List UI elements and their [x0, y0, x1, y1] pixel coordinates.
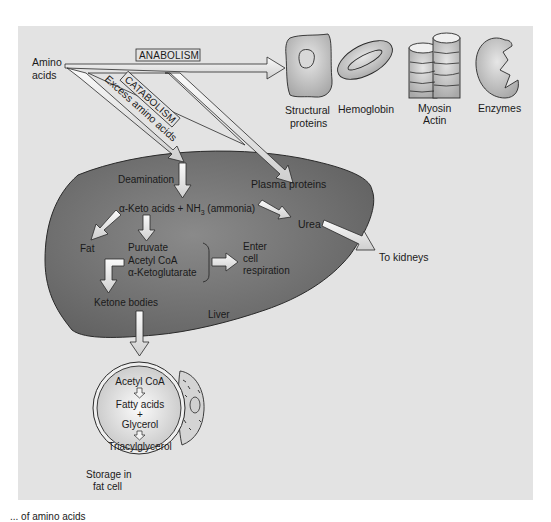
structural-proteins-label: Structural [285, 104, 330, 116]
structural-proteins-label-2: proteins [290, 117, 327, 129]
puruvate-label: Puruvate [128, 242, 168, 253]
figure-caption-fragment: ... of amino acids [10, 511, 86, 522]
cell-label: cell [243, 253, 258, 264]
to-kidneys-label: To kidneys [379, 251, 429, 263]
liver-label: Liver [208, 309, 230, 320]
deamination-label: Deamination [118, 174, 174, 185]
storage-caption: Storage in [86, 469, 132, 480]
enter-label: Enter [243, 241, 268, 252]
urea-label: Urea [298, 218, 321, 230]
amino-acid-metabolism-diagram: Amino acids ANABOLISM CATABOLISM Excess … [0, 0, 551, 522]
anabolism-label: ANABOLISM [139, 50, 199, 61]
acetyl-coa-label: Acetyl CoA [128, 255, 178, 266]
fat-cell-acetyl-coa: Acetyl CoA [115, 376, 165, 387]
hemoglobin-label: Hemoglobin [338, 103, 394, 115]
ketone-bodies-label: Ketone bodies [94, 297, 158, 308]
cell-icon [286, 34, 332, 97]
fat-cell-glycerol: Glycerol [122, 419, 159, 430]
amino-acids-label: Amino [32, 56, 62, 68]
amino-acids-label-2: acids [32, 69, 57, 81]
alpha-ketoglutarate-label: α-Ketoglutarate [128, 267, 197, 278]
fat-label: Fat [80, 243, 95, 254]
respiration-label: respiration [243, 265, 290, 276]
actin-label: Actin [423, 114, 447, 126]
storage-caption-2: fat cell [93, 481, 122, 492]
plasma-proteins-label: Plasma proteins [251, 178, 326, 190]
enzymes-label: Enzymes [478, 102, 521, 114]
fat-cell-triacylglycerol: Triacylglycerol [108, 441, 172, 452]
myosin-label: Myosin [418, 102, 451, 114]
